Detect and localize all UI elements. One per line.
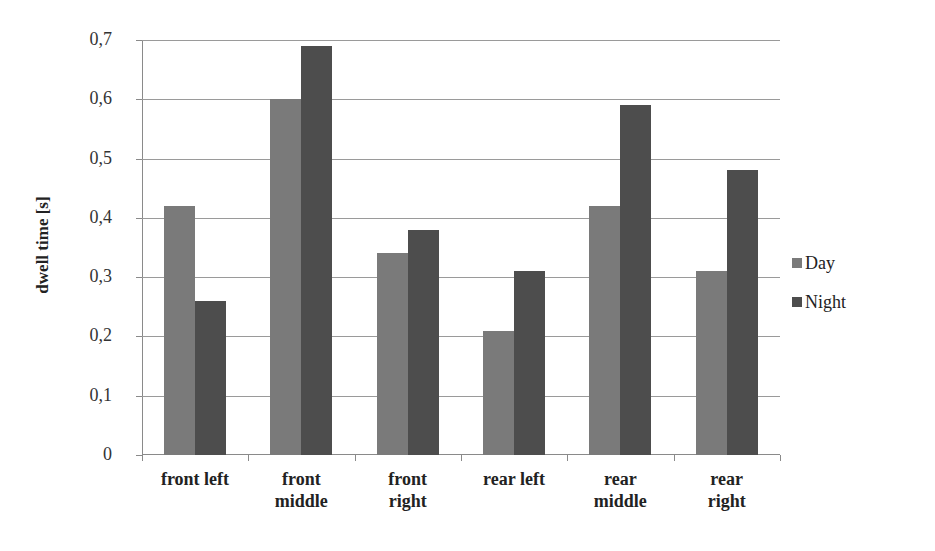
- x-tick-mark: [248, 455, 249, 461]
- bar-night: [727, 170, 758, 455]
- y-tick-label: 0,6: [60, 88, 112, 108]
- legend-swatch-icon: [792, 297, 802, 307]
- bar-day: [589, 206, 620, 455]
- x-tick-label: frontright: [355, 468, 461, 512]
- x-tick-label: rearright: [674, 468, 780, 512]
- bar-group: [461, 40, 567, 455]
- x-tick-label: rearmiddle: [567, 468, 673, 512]
- x-tick-mark: [674, 455, 675, 461]
- bar-night: [195, 301, 226, 455]
- legend-label: Night: [805, 292, 846, 313]
- y-tick-label: 0,1: [60, 385, 112, 405]
- legend-item-night: Night: [792, 291, 846, 313]
- plot-area: [142, 40, 780, 455]
- legend-item-day: Day: [792, 252, 846, 274]
- y-tick-label: 0,2: [60, 325, 112, 345]
- x-tick-mark: [567, 455, 568, 461]
- x-tick-mark: [142, 455, 143, 461]
- bar-group: [567, 40, 673, 455]
- y-axis-label: dwell time [s]: [33, 170, 53, 320]
- y-tick-label: 0,5: [60, 148, 112, 168]
- x-tick-mark: [461, 455, 462, 461]
- legend-swatch-icon: [792, 258, 802, 268]
- bar-day: [164, 206, 195, 455]
- legend-label: Day: [805, 253, 835, 274]
- bar-day: [483, 331, 514, 456]
- x-tick-label: front left: [142, 468, 248, 490]
- bar-night: [301, 46, 332, 455]
- bar-night: [620, 105, 651, 455]
- x-tick-mark: [780, 455, 781, 461]
- bar-group: [142, 40, 248, 455]
- bar-group: [248, 40, 354, 455]
- bar-night: [514, 271, 545, 455]
- x-tick-label: frontmiddle: [248, 468, 354, 512]
- y-tick-label: 0,7: [60, 29, 112, 49]
- bar-day: [696, 271, 727, 455]
- x-tick-mark: [355, 455, 356, 461]
- bar-chart: dwell time [s] 00,10,20,30,40,50,60,7 fr…: [0, 0, 935, 551]
- y-tick-label: 0,3: [60, 266, 112, 286]
- y-tick-label: 0,4: [60, 207, 112, 227]
- y-tick-label: 0: [60, 444, 112, 464]
- bar-group: [355, 40, 461, 455]
- bar-group: [674, 40, 780, 455]
- bar-day: [377, 253, 408, 455]
- bar-day: [270, 99, 301, 455]
- bar-night: [408, 230, 439, 455]
- legend: DayNight: [792, 252, 846, 330]
- x-tick-label: rear left: [461, 468, 567, 490]
